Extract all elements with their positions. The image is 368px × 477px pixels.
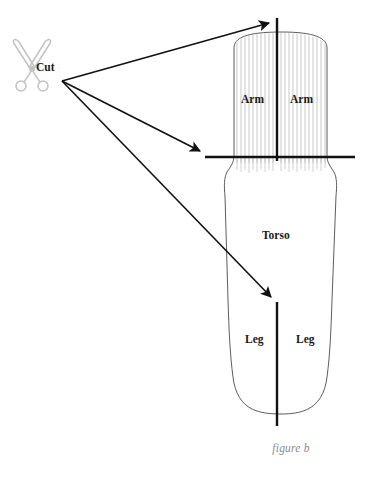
label-cut: Cut [36, 62, 55, 74]
figure-caption: figure b [272, 442, 309, 454]
label-arm-left: Arm [241, 94, 264, 106]
label-leg-left: Leg [245, 334, 264, 346]
label-torso: Torso [262, 230, 290, 242]
figure-b-diagram: Cut Arm Arm Torso Leg Leg figure b [0, 0, 368, 477]
diagram-canvas [0, 0, 368, 477]
label-arm-right: Arm [290, 94, 313, 106]
arrow-to-shoulder-cut [62, 81, 200, 151]
figure-caption-wrap: figure b [0, 442, 368, 454]
label-leg-right: Leg [296, 334, 315, 346]
